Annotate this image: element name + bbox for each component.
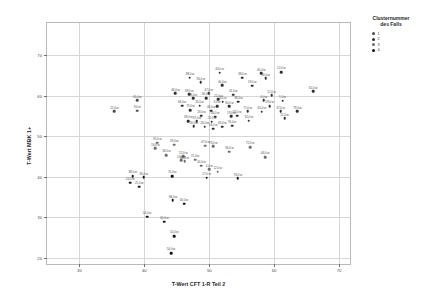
data-point[interactable] — [236, 114, 239, 117]
data-point[interactable] — [216, 170, 219, 173]
data-point[interactable] — [170, 252, 173, 255]
y-tick-label: 40 — [37, 174, 42, 179]
legend-item-label: 1 — [377, 32, 379, 36]
data-point[interactable] — [251, 84, 254, 87]
data-point[interactable] — [172, 199, 175, 202]
data-point[interactable] — [312, 90, 315, 93]
data-point[interactable] — [208, 168, 211, 171]
data-point[interactable] — [136, 110, 139, 113]
y-tick — [44, 258, 47, 259]
scatter-chart: 22,0:w45,0:w9,0:w38,0:w24,0:w36,0:w21,0:… — [0, 0, 427, 305]
data-point[interactable] — [136, 99, 139, 102]
x-tick — [144, 264, 145, 267]
data-point[interactable] — [154, 147, 157, 150]
data-point[interactable] — [241, 76, 244, 79]
gridline-vertical — [144, 23, 145, 264]
data-point[interactable] — [218, 72, 221, 75]
x-tick-label: 30 — [77, 268, 82, 273]
data-point[interactable] — [200, 164, 203, 167]
gridline-horizontal — [47, 55, 350, 56]
data-point[interactable] — [205, 97, 208, 100]
legend-items: 1234 — [358, 31, 424, 53]
data-point[interactable] — [270, 94, 273, 97]
legend-item-label: 4 — [377, 48, 379, 52]
data-point[interactable] — [246, 110, 249, 113]
data-point[interactable] — [216, 105, 219, 108]
x-tick-label: 70 — [337, 268, 342, 273]
data-point[interactable] — [138, 185, 141, 188]
data-point[interactable] — [221, 125, 224, 128]
legend-item-cluster-4[interactable]: 4 — [372, 48, 424, 54]
plot-area: 22,0:w45,0:w9,0:w38,0:w24,0:w36,0:w21,0:… — [46, 22, 351, 265]
data-point[interactable] — [280, 71, 283, 74]
data-point[interactable] — [181, 104, 184, 107]
data-point[interactable] — [142, 176, 145, 179]
data-point[interactable] — [129, 181, 132, 184]
data-point[interactable] — [163, 221, 166, 224]
data-point[interactable] — [281, 99, 284, 102]
data-point[interactable] — [192, 97, 195, 100]
y-tick-label: 20 — [37, 255, 42, 260]
x-tick — [339, 264, 340, 267]
data-point[interactable] — [261, 110, 264, 113]
x-tick — [209, 264, 210, 267]
legend-marker-icon — [372, 38, 375, 41]
data-point[interactable] — [296, 110, 299, 113]
data-point[interactable] — [189, 109, 192, 112]
legend-marker-icon — [372, 43, 375, 46]
data-point[interactable] — [204, 144, 207, 147]
data-point[interactable] — [237, 100, 240, 103]
data-point[interactable] — [212, 127, 215, 130]
data-point[interactable] — [236, 177, 239, 180]
data-point[interactable] — [264, 156, 267, 159]
data-point[interactable] — [268, 105, 271, 108]
data-point[interactable] — [188, 76, 191, 79]
legend-item-label: 2 — [377, 37, 379, 41]
x-tick-label: 40 — [142, 268, 147, 273]
data-point[interactable] — [183, 202, 186, 205]
data-point[interactable] — [249, 146, 252, 149]
data-point[interactable] — [192, 125, 195, 128]
gridline-horizontal — [47, 136, 350, 137]
gridline-horizontal — [47, 177, 350, 178]
gridline-horizontal — [47, 96, 350, 97]
data-point[interactable] — [165, 154, 168, 157]
data-point[interactable] — [173, 235, 176, 238]
data-point[interactable] — [264, 77, 267, 80]
data-point[interactable] — [248, 119, 251, 122]
data-point[interactable] — [212, 145, 215, 148]
data-point[interactable] — [230, 115, 233, 118]
data-point[interactable] — [146, 215, 149, 218]
data-point[interactable] — [205, 176, 208, 179]
data-point[interactable] — [171, 175, 174, 178]
data-point[interactable] — [200, 81, 203, 84]
data-point[interactable] — [180, 159, 183, 162]
data-point[interactable] — [228, 105, 231, 108]
data-point[interactable] — [231, 125, 234, 128]
data-point[interactable] — [173, 144, 176, 147]
legend-title-line2: des Falls — [358, 21, 424, 27]
gridline-horizontal — [47, 217, 350, 218]
legend-item-label: 3 — [377, 43, 379, 47]
data-point[interactable] — [283, 117, 286, 120]
y-tick-label: 60 — [37, 93, 42, 98]
gridline-vertical — [339, 23, 340, 264]
gridline-vertical — [79, 23, 80, 264]
x-tick — [79, 264, 80, 267]
data-point[interactable] — [221, 84, 224, 87]
y-axis-title: T-Wert MBK 1+ — [26, 71, 32, 221]
data-point[interactable] — [203, 125, 206, 128]
data-point[interactable] — [228, 150, 231, 153]
legend: Clusternummer des Falls 1234 — [358, 15, 424, 53]
y-tick — [44, 217, 47, 218]
data-point[interactable] — [183, 160, 186, 163]
data-point[interactable] — [174, 92, 177, 95]
x-tick — [274, 264, 275, 267]
y-tick-label: 30 — [37, 215, 42, 220]
data-point[interactable] — [113, 110, 116, 113]
data-point[interactable] — [222, 100, 225, 103]
legend-marker-icon — [372, 32, 375, 35]
y-tick — [44, 96, 47, 97]
data-point[interactable] — [194, 159, 197, 162]
data-point[interactable] — [198, 104, 201, 107]
